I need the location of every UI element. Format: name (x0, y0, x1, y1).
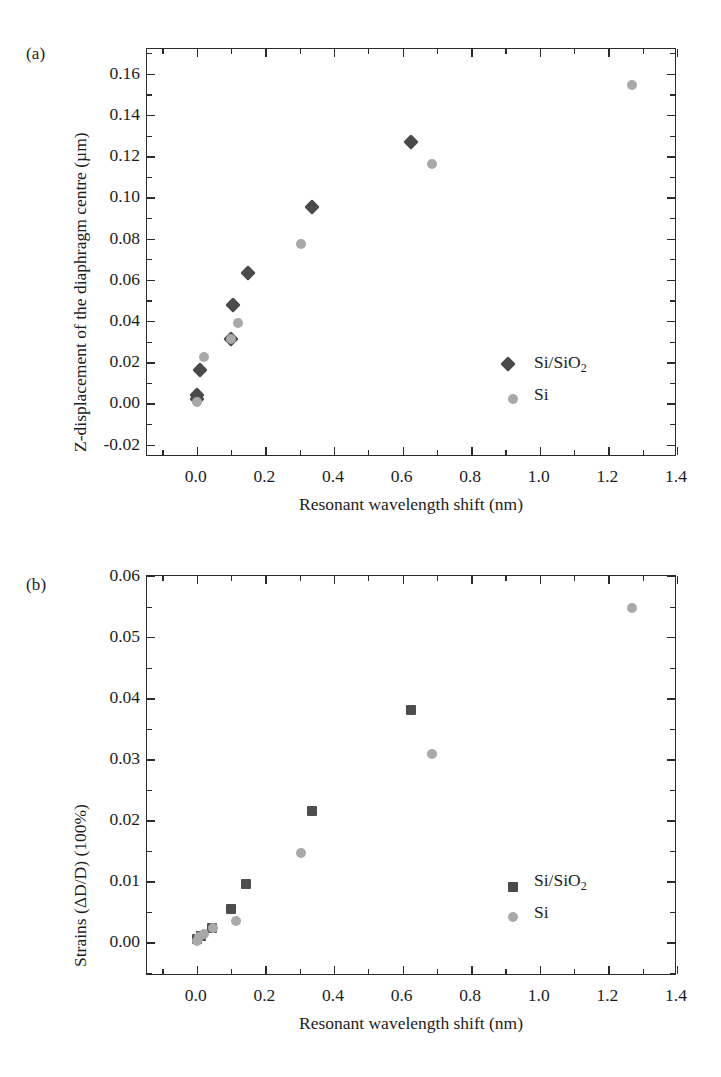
y-axis-minor-tick-right (670, 218, 675, 219)
x-axis-minor-tick-top (231, 49, 232, 54)
y-axis-tick-right (667, 445, 675, 446)
square-data-point (307, 806, 317, 816)
x-axis-tick (471, 447, 472, 455)
y-axis-tick-label: 0.08 (109, 227, 140, 248)
legend-label: Si (534, 902, 549, 923)
y-axis-minor-tick-right (670, 424, 675, 425)
x-axis-minor-tick-top (574, 49, 575, 54)
circle-data-point (427, 159, 437, 169)
y-axis-tick (147, 74, 155, 75)
y-axis-tick (147, 239, 155, 240)
x-axis-minor-tick-top (162, 576, 163, 581)
y-axis-minor-tick-right (670, 136, 675, 137)
circle-marker (508, 394, 518, 404)
x-axis-tick (608, 447, 609, 455)
y-axis-minor-tick-right (670, 259, 675, 260)
y-axis-tick-right (667, 942, 675, 943)
y-axis-tick-right (667, 576, 675, 577)
square-data-point (241, 879, 251, 889)
y-axis-tick (147, 820, 155, 821)
y-axis-minor-tick-right (670, 383, 675, 384)
y-axis-minor-tick (147, 94, 152, 95)
chart-panel-b: (b) Strains (ΔD/D) (100%) Si/SiO2Si Reso… (0, 537, 721, 1077)
x-axis-tick-label: 1.4 (665, 985, 687, 1006)
y-axis-minor-tick (147, 607, 152, 608)
x-axis-tick-label: 0.6 (391, 985, 413, 1006)
y-axis-tick-label: 0.02 (109, 809, 140, 830)
x-axis-tick (540, 447, 541, 455)
circle-data-point (192, 397, 202, 407)
x-axis-tick-label: 0.6 (391, 466, 413, 487)
x-axis-tick-top (471, 49, 472, 57)
x-axis-tick-label: 1.2 (596, 466, 618, 487)
y-axis-minor-tick-right (670, 342, 675, 343)
circle-data-point (199, 352, 209, 362)
y-axis-tick (147, 881, 155, 882)
y-axis-tick-label: 0.10 (109, 186, 140, 207)
x-axis-tick (265, 447, 266, 455)
x-axis-tick-label: 0.4 (322, 466, 344, 487)
x-axis-tick-top (265, 49, 266, 57)
y-axis-minor-tick-right (670, 53, 675, 54)
y-axis-tick (147, 280, 155, 281)
x-axis-minor-tick-top (505, 576, 506, 581)
x-axis-tick-top (608, 49, 609, 57)
y-axis-tick (147, 637, 155, 638)
y-axis-minor-tick-right (670, 94, 675, 95)
x-axis-minor-tick-top (505, 49, 506, 54)
circle-data-point (296, 239, 306, 249)
y-axis-tick-label: 0.05 (109, 626, 140, 647)
x-axis-minor-tick (505, 969, 506, 974)
circle-data-point (208, 923, 218, 933)
plot-area-b (147, 576, 675, 974)
y-axis-tick-right (667, 759, 675, 760)
y-axis-tick-label: 0.06 (109, 268, 140, 289)
panel-label-b: (b) (26, 575, 46, 595)
x-axis-minor-tick-top (643, 576, 644, 581)
y-axis-tick-right (667, 881, 675, 882)
x-axis-tick-top (197, 49, 198, 57)
y-axis-tick-label: 0.12 (109, 145, 140, 166)
y-axis-tick-right (667, 239, 675, 240)
y-axis-tick-label: 0.14 (109, 103, 140, 124)
y-axis-tick-label: 0.00 (109, 931, 140, 952)
y-axis-tick (147, 197, 155, 198)
x-axis-minor-tick (643, 450, 644, 455)
y-axis-tick-label: 0.00 (109, 392, 140, 413)
diamond-data-point (240, 265, 256, 281)
y-axis-tick (147, 445, 155, 446)
x-axis-minor-tick (574, 450, 575, 455)
y-axis-minor-tick (147, 383, 152, 384)
legend-label: Si (534, 384, 549, 405)
y-axis-tick (147, 362, 155, 363)
x-axis-tick-top (334, 49, 335, 57)
y-axis-tick (147, 759, 155, 760)
y-axis-tick-label: -0.02 (104, 433, 140, 454)
x-axis-minor-tick-top (574, 576, 575, 581)
y-axis-tick-right (667, 698, 675, 699)
circle-data-point (427, 749, 437, 759)
x-axis-minor-tick (368, 969, 369, 974)
y-axis-tick-right (667, 156, 675, 157)
x-axis-minor-tick-top (437, 576, 438, 581)
y-axis-tick-label: 0.16 (109, 62, 140, 83)
y-axis-minor-tick-right (670, 668, 675, 669)
y-axis-tick (147, 576, 155, 577)
x-axis-tick-top (471, 576, 472, 584)
x-axis-tick (197, 966, 198, 974)
y-axis-minor-tick (147, 973, 152, 974)
diamond-data-point (225, 297, 241, 313)
x-axis-tick (265, 966, 266, 974)
x-axis-tick-top (265, 576, 266, 584)
circle-data-point (199, 929, 209, 939)
x-axis-tick-label: 1.2 (596, 985, 618, 1006)
circle-data-point (296, 848, 306, 858)
legend-label-subscript: 2 (581, 879, 587, 893)
x-axis-tick-label: 0.0 (185, 466, 207, 487)
y-axis-tick (147, 942, 155, 943)
x-axis-minor-tick (300, 450, 301, 455)
x-axis-tick-top (608, 576, 609, 584)
x-axis-tick-top (677, 49, 678, 57)
circle-data-point (627, 80, 637, 90)
x-axis-minor-tick-top (300, 49, 301, 54)
